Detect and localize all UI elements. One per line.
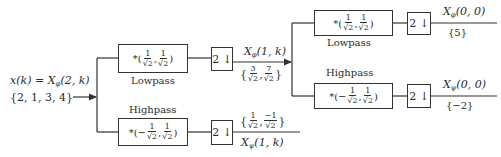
stage2-lowpass-label: Lowpass (327, 38, 371, 48)
stage1-highpass-label: Highpass (129, 105, 176, 115)
stage1-lowpass-downsample-box: 2 ↓ (211, 47, 233, 71)
stage1-highpass-filter-box: *(− 1√2, 1√2 ) (118, 118, 188, 146)
input-signal-label: x(k) = Xφ(2, k) (10, 75, 90, 88)
stage2-lowpass-output-values: {5} (448, 28, 467, 38)
stage2-highpass-output-label: Xψ(0, 0) (443, 79, 486, 92)
input-values: {2, 1, 3, 4} (10, 92, 73, 103)
stage2-highpass-downsample-box: 2 ↓ (407, 84, 431, 108)
stage2-highpass-output-values: {−2} (446, 101, 473, 111)
stage1-lowpass-output-values: { 3√2, 7√2 } (240, 65, 282, 83)
stage1-highpass-output-values: { 1√2, −1√2 } (240, 112, 285, 130)
stage2-highpass-label: Highpass (326, 68, 373, 78)
stage2-highpass-filter-box: *(− 1√2, 1√2 ) (314, 83, 393, 109)
stage1-lowpass-output-label: Xφ(1, k) (244, 46, 286, 59)
stage1-lowpass-label: Lowpass (131, 76, 175, 86)
stage2-lowpass-downsample-box: 2 ↓ (407, 12, 431, 35)
stage1-highpass-output-label: Xψ(1, k) (241, 137, 284, 150)
stage1-highpass-downsample-box: 2 ↓ (211, 120, 233, 145)
stage2-lowpass-output-label: Xφ(0, 0) (443, 6, 485, 19)
stage1-lowpass-filter-box: *( 1√2, 1√2 ) (118, 44, 188, 73)
stage2-lowpass-filter-box: *( 1√2, 1√2 ) (314, 10, 393, 36)
